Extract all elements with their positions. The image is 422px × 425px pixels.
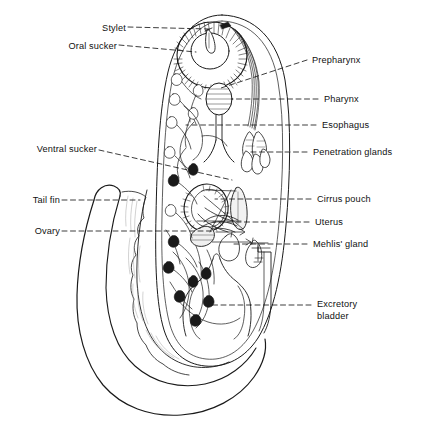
- label-esophagus: Esophagus: [322, 120, 369, 131]
- label-mehlis-gland: Mehlis' gland: [313, 239, 368, 250]
- leader-stylet: [128, 27, 209, 29]
- label-prepharynx: Prepharynx: [312, 55, 360, 66]
- cirrus-pouch: [231, 187, 248, 229]
- label-pharynx: Pharynx: [324, 94, 359, 105]
- label-ventral-sucker: Ventral sucker: [0, 144, 97, 155]
- cystogenous-gland-cells: [163, 74, 240, 328]
- label-penetration-glands: Penetration glands: [313, 147, 392, 158]
- label-excretory-bladder-line2: bladder: [317, 311, 349, 322]
- prepharynx: [231, 27, 259, 130]
- label-cirrus-pouch: Cirrus pouch: [317, 194, 371, 205]
- label-ovary: Ovary: [0, 226, 60, 237]
- label-uterus: Uterus: [315, 217, 343, 228]
- leader-oral-sucker: [119, 45, 196, 52]
- pharynx: [206, 83, 232, 115]
- label-stylet: Stylet: [0, 23, 126, 34]
- label-oral-sucker: Oral sucker: [0, 41, 117, 52]
- penetration-glands: [241, 132, 270, 174]
- label-excretory-bladder-line1: Excretory: [317, 299, 357, 310]
- ovary: [190, 226, 214, 246]
- label-tail-fin: Tail fin: [0, 195, 60, 206]
- cercaria-diagram-figure: Stylet Oral sucker Ventral sucker Tail f…: [0, 0, 422, 425]
